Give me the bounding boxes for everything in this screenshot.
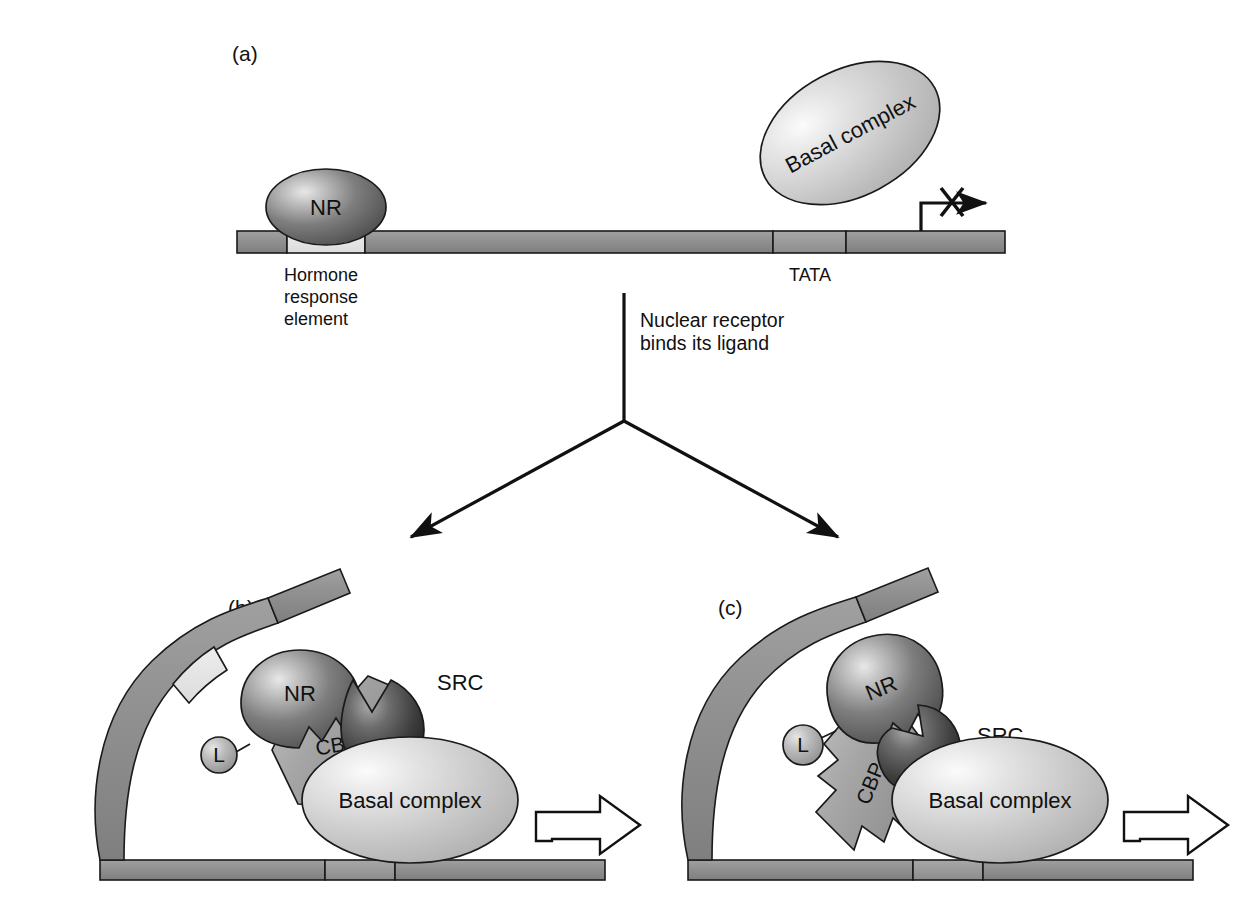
panel-b-src-label: SRC [437, 670, 484, 695]
panel-b-basal-complex-label: Basal complex [338, 788, 481, 813]
flow-branch-left [411, 421, 624, 537]
panel-b-ligand-label: L [213, 743, 225, 766]
panel-b-basal-complex: Basal complex [302, 737, 518, 863]
panel-a-label: (a) [232, 42, 258, 65]
hre-caption-line-1: Hormone [284, 265, 358, 285]
flow-annotation-line-2: binds its ligand [640, 332, 769, 354]
branching-flow: Nuclear receptor binds its ligand [411, 293, 838, 537]
panel-c-transcription-active-arrow [1124, 796, 1228, 854]
hre-caption-line-2: response [284, 287, 358, 307]
panel-c-basal-complex: Basal complex [892, 737, 1108, 863]
panel-c-label: (c) [718, 596, 743, 619]
dna-bottom-upstream [100, 860, 325, 880]
dna-segment-spacer [365, 231, 773, 253]
transcription-blocked-arrow [921, 188, 986, 231]
panel-b: (b) CBP NR [95, 569, 640, 880]
nuclear-receptor-diagram: (a) NR Basal comp [0, 0, 1241, 922]
hormone-response-element-caption: Hormone response element [284, 265, 358, 329]
dna-segment-upstream [237, 231, 287, 253]
panel-b-ligand: L [201, 737, 250, 773]
panel-c-dna-bottom-upstream [688, 860, 913, 880]
cut-off-caption [0, 912, 1241, 922]
panel-c-dna-bottom-tata-box [913, 860, 983, 880]
panel-c: (c) CBP NR L SRC [682, 568, 1228, 880]
transcription-start-arrow [921, 203, 986, 231]
dna-segment-downstream [846, 231, 1005, 253]
figure-root: (a) NR Basal comp [0, 0, 1241, 922]
flow-branch-right [624, 421, 838, 537]
hre-caption-line-3: element [284, 309, 348, 329]
tata-box-label: TATA [789, 265, 831, 285]
flow-annotation-line-1: Nuclear receptor [640, 309, 785, 331]
panel-c-ligand-label: L [797, 733, 809, 756]
panel-c-dna-loop-upper-tail [856, 568, 938, 622]
panel-c-basal-complex-label: Basal complex [928, 788, 1071, 813]
panel-b-nr-label: NR [284, 681, 316, 706]
panel-a-nuclear-receptor: NR [266, 169, 386, 245]
panel-a: (a) NR Basal comp [232, 32, 1005, 329]
dna-segment-tata-box [773, 231, 846, 253]
nuclear-receptor-label: NR [310, 195, 342, 220]
dna-loop-upper-tail [268, 569, 350, 623]
panel-b-transcription-active-arrow [536, 796, 640, 854]
dna-bottom-tata-box [325, 860, 395, 880]
